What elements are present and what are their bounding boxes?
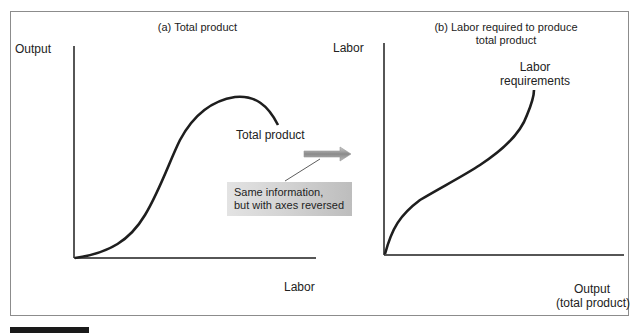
panel-a-x-axis-label: Labor: [284, 280, 315, 294]
callout-leader-line: [285, 159, 320, 181]
panel-b-x-axis-label-line-2: (total product): [520, 296, 630, 310]
panel-b-x-axis-label-line-1: Output: [540, 282, 610, 296]
callout-line-2: but with axes reversed: [227, 199, 352, 212]
axes-reversed-callout: Same information, but with axes reversed: [227, 182, 352, 216]
figure-label-bar: [10, 327, 89, 333]
figure-full-border: [10, 11, 630, 157]
callout-line-1: Same information,: [227, 182, 352, 199]
